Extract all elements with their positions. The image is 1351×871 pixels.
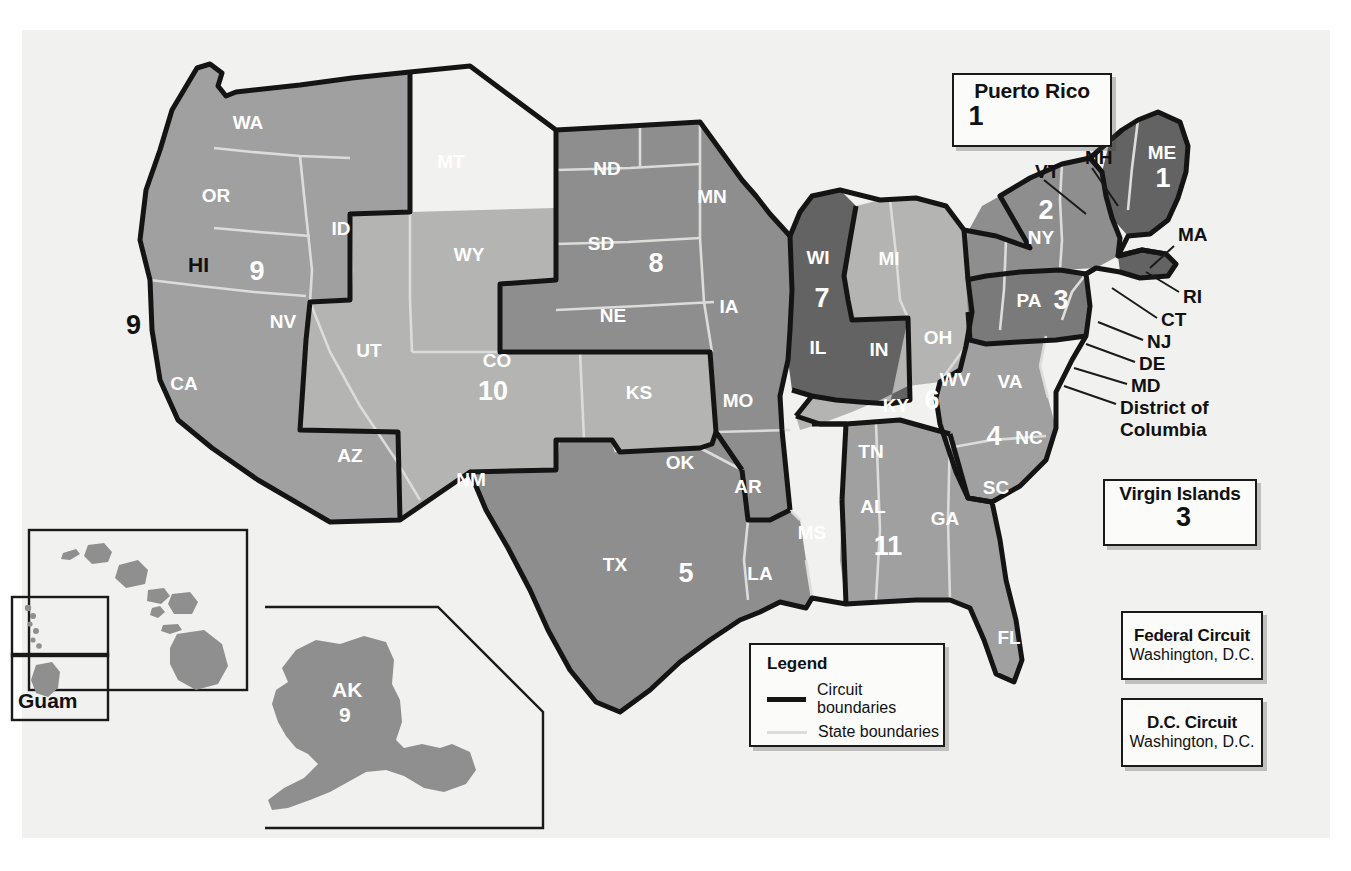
federal-circuit-location: Washington, D.C. <box>1130 647 1255 664</box>
dc-circuit-name: D.C. Circuit <box>1147 714 1237 731</box>
virgin-islands-circuit-number: 3 <box>1176 504 1191 531</box>
legend-item-state: State boundaries <box>767 723 943 741</box>
virgin-islands-inset-box: Virgin Islands 3 <box>1103 479 1257 546</box>
state-boundary-swatch <box>767 731 807 734</box>
puerto-rico-circuit-number: 1 <box>968 103 983 130</box>
circuit-map: Puerto Rico 1 Virgin Islands 3 Federal C… <box>0 0 1351 871</box>
legend-title: Legend <box>767 654 943 674</box>
dc-circuit-box: D.C. Circuit Washington, D.C. <box>1121 698 1263 767</box>
hawaii-inset <box>29 530 247 690</box>
puerto-rico-inset-box: Puerto Rico 1 <box>952 73 1112 147</box>
circuit-boundary-swatch <box>767 697 806 702</box>
guam-inset <box>12 597 108 720</box>
legend-item-circuit: Circuit boundaries <box>767 681 943 717</box>
legend-box: Legend Circuit boundaries State boundari… <box>749 643 945 747</box>
circuit-boundary-label: Circuit boundaries <box>817 681 943 717</box>
virgin-islands-title: Virgin Islands <box>1105 484 1255 503</box>
puerto-rico-title: Puerto Rico <box>954 80 1110 101</box>
federal-circuit-name: Federal Circuit <box>1134 627 1250 644</box>
state-boundary-label: State boundaries <box>818 723 939 741</box>
dc-circuit-location: Washington, D.C. <box>1130 734 1255 751</box>
alaska-inset <box>265 607 543 828</box>
federal-circuit-box: Federal Circuit Washington, D.C. <box>1121 611 1263 680</box>
circuit-region-3 <box>966 270 1090 344</box>
